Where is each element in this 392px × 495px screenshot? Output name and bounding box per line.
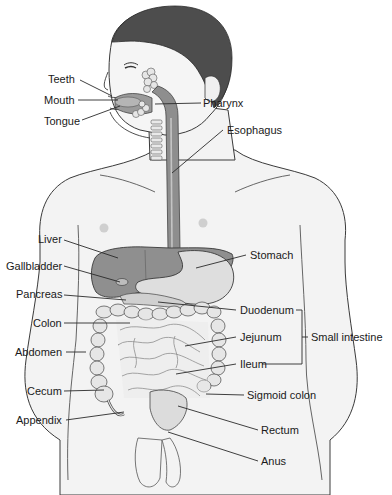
pelvic-outline — [135, 438, 180, 487]
label-liver: Liver — [38, 233, 62, 246]
label-rectum: Rectum — [261, 424, 299, 437]
label-anus: Anus — [261, 455, 286, 468]
label-cecum: Cecum — [27, 385, 62, 398]
label-duodenum: Duodenum — [240, 304, 294, 317]
label-teeth: Teeth — [48, 73, 75, 86]
label-pancreas: Pancreas — [16, 288, 62, 301]
label-esophagus: Esophagus — [227, 124, 282, 137]
label-pharynx: Pharynx — [203, 97, 243, 110]
label-stomach: Stomach — [250, 249, 293, 262]
label-tongue: Tongue — [44, 115, 80, 128]
label-gallbladder: Gallbladder — [6, 260, 62, 273]
label-abdomen: Abdomen — [15, 346, 62, 359]
nipple-left — [100, 224, 109, 233]
nipple-right — [199, 219, 208, 228]
label-small-intestine: Small intestine — [311, 331, 383, 344]
label-ileum: Ileum — [240, 358, 267, 371]
label-jejunum: Jejunum — [240, 331, 282, 344]
digestive-system-diagram: Teeth Mouth Tongue Liver Gallbladder Pan… — [0, 0, 392, 495]
label-sigmoid-colon: Sigmoid colon — [247, 389, 316, 402]
label-appendix: Appendix — [16, 414, 62, 427]
label-mouth: Mouth — [44, 94, 75, 107]
gallbladder-shape — [116, 279, 128, 286]
label-colon: Colon — [33, 317, 62, 330]
tongue-shape — [115, 97, 141, 107]
